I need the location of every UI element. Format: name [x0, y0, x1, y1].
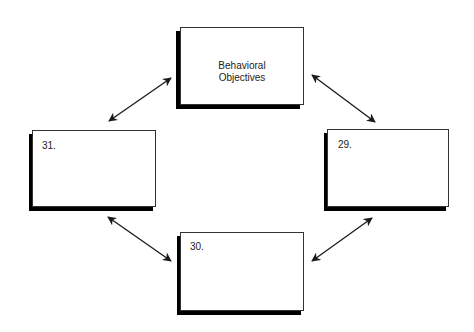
- connector-arrows: [0, 0, 474, 332]
- arrow-left-top: [109, 78, 171, 121]
- arrow-bottom-left: [108, 217, 171, 261]
- arrow-right-bottom: [312, 218, 372, 261]
- cycle-diagram: Behavioral Objectives 31. 29. 30.: [0, 0, 474, 332]
- arrow-top-right: [312, 75, 375, 122]
